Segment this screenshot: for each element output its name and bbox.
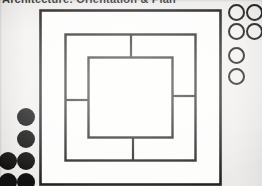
filled-circle-mark xyxy=(17,152,35,170)
page-title: Architecture: Orientation & Plan xyxy=(2,0,176,5)
filled-circle-mark xyxy=(17,130,35,148)
open-circle-mark xyxy=(246,23,262,40)
filled-circle-mark xyxy=(17,173,35,186)
diagram-svg xyxy=(39,9,222,186)
scanned-page: Architecture: Orientation & Plan xyxy=(0,0,262,186)
open-circle-mark xyxy=(228,23,245,40)
filled-circle-mark xyxy=(17,108,35,126)
filled-circle-marks xyxy=(0,108,38,186)
open-circle-mark xyxy=(228,47,245,64)
filled-circle-mark xyxy=(0,152,17,170)
filled-circle-mark xyxy=(0,173,17,186)
open-circle-mark xyxy=(228,4,245,21)
pinwheel-square-diagram xyxy=(39,9,222,186)
header-strip: Architecture: Orientation & Plan xyxy=(0,0,262,9)
open-circle-mark xyxy=(228,68,245,85)
open-circle-marks xyxy=(226,2,262,90)
inner-square xyxy=(89,58,173,138)
open-circle-mark xyxy=(246,4,262,21)
